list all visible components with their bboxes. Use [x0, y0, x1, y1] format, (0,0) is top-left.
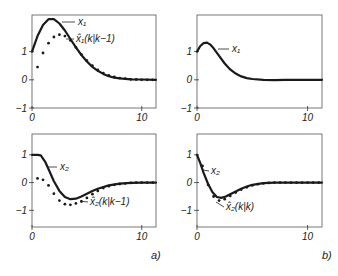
y-tick-label: 1 — [186, 46, 192, 57]
x-tick-label: 10 — [136, 231, 148, 242]
y-tick-label: −1 — [181, 103, 192, 114]
series-x1 — [197, 43, 322, 81]
chart-panel-b_bottom: −101010x₂x̂₂(k|k) — [181, 134, 322, 242]
series-annotation: x₁ — [231, 43, 240, 54]
series-annotation: x̂₂(k|k) — [225, 201, 254, 212]
series-x2 — [32, 155, 156, 199]
y-tick-label: 1 — [21, 149, 27, 160]
series-annotation: x₂ — [59, 161, 69, 172]
chart-panel-b_top: −101010x₁ — [181, 15, 322, 123]
annotation-leader — [216, 202, 224, 207]
y-tick-label: 1 — [21, 46, 27, 57]
series-x1 — [32, 19, 156, 80]
series-annotation: x̂₁(k|k−1) — [75, 33, 115, 44]
x-tick-label: 0 — [29, 231, 35, 242]
x-tick-label: 0 — [194, 112, 200, 123]
plot-frame — [197, 134, 322, 227]
x-tick-label: 10 — [302, 231, 314, 242]
panel-label-a: a) — [151, 249, 161, 261]
y-tick-label: 0 — [186, 177, 192, 188]
y-tick-label: −1 — [181, 205, 192, 216]
figure: −101010x₁x̂₁(k|k−1)−101010x₂x̂₂(k|k−1)−1… — [0, 0, 338, 276]
series-annotation: x̂₂(k|k−1) — [89, 196, 129, 207]
plot-frame — [32, 15, 156, 108]
chart-panel-a_top: −101010x₁x̂₁(k|k−1) — [16, 15, 156, 123]
plot-frame — [32, 134, 156, 227]
panel-label-b: b) — [322, 249, 332, 261]
series-x2 — [197, 155, 322, 198]
series-annotation: x₁ — [77, 16, 86, 27]
x-tick-label: 0 — [194, 231, 200, 242]
chart-panel-a_bottom: −101010x₂x̂₂(k|k−1) — [16, 134, 156, 242]
y-tick-label: 0 — [21, 177, 27, 188]
y-tick-label: −1 — [16, 205, 27, 216]
y-tick-label: 1 — [186, 149, 192, 160]
x-tick-label: 10 — [302, 112, 314, 123]
y-tick-label: 0 — [186, 74, 192, 85]
x-tick-label: 0 — [29, 112, 35, 123]
series-annotation: x₂ — [210, 165, 220, 176]
plot-frame — [197, 15, 322, 108]
y-tick-label: −1 — [16, 103, 27, 114]
x-tick-label: 10 — [136, 112, 148, 123]
y-tick-label: 0 — [21, 74, 27, 85]
